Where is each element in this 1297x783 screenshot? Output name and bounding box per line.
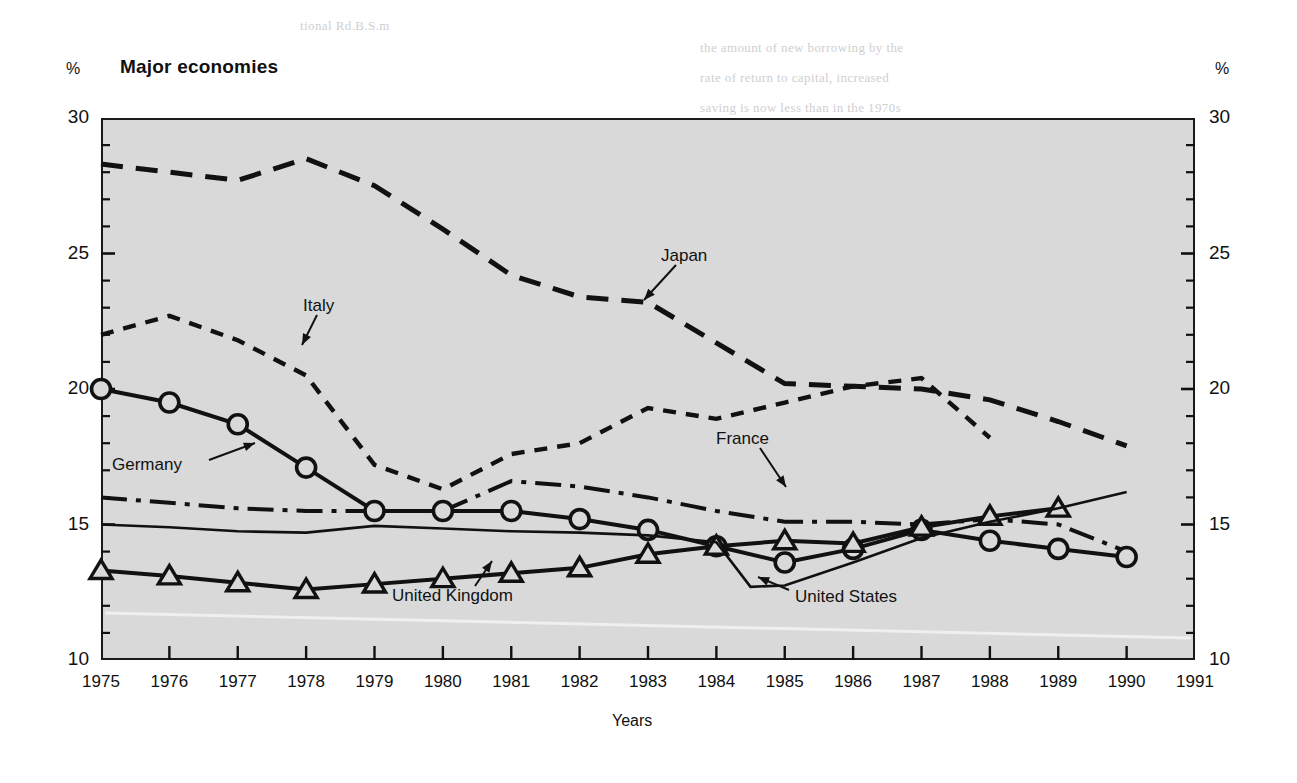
- bleed-text-line: tional Rd.B.S.m: [300, 18, 390, 34]
- figure-page: tional Rd.B.S.mthe amount of new borrowi…: [0, 0, 1297, 783]
- x-axis-tick-label: 1983: [629, 672, 667, 692]
- series-label-france: France: [716, 429, 769, 449]
- series-label-united-states: United States: [795, 587, 897, 607]
- series-label-japan: Japan: [661, 246, 707, 266]
- y-axis-tick-label: 10: [1209, 648, 1259, 670]
- x-axis-tick-label: 1975: [82, 672, 120, 692]
- y-axis-unit-left: %: [66, 60, 80, 78]
- x-axis-tick-label: 1981: [492, 672, 530, 692]
- y-axis-tick-label: 20: [39, 377, 89, 399]
- x-axis-tick-label: 1978: [287, 672, 325, 692]
- series-label-germany: Germany: [112, 455, 182, 475]
- x-axis-caption: Years: [612, 712, 652, 730]
- series-label-united-kingdom: United Kingdom: [392, 586, 513, 606]
- bleed-text-line: the amount of new borrowing by the: [700, 40, 904, 56]
- series-label-italy: Italy: [303, 296, 334, 316]
- y-axis-tick-label: 15: [1209, 513, 1259, 535]
- x-axis-tick-label: 1989: [1039, 672, 1077, 692]
- x-axis-tick-label: 1980: [424, 672, 462, 692]
- x-axis-tick-label: 1991: [1176, 672, 1214, 692]
- y-axis-tick-label: 10: [39, 648, 89, 670]
- plot-area: [101, 118, 1195, 660]
- y-axis-tick-label: 25: [1209, 242, 1259, 264]
- x-axis-tick-label: 1986: [834, 672, 872, 692]
- y-axis-tick-label: 30: [1209, 106, 1259, 128]
- y-axis-tick-label: 15: [39, 513, 89, 535]
- y-axis-tick-label: 25: [39, 242, 89, 264]
- x-axis-tick-label: 1979: [356, 672, 394, 692]
- x-axis-tick-label: 1984: [697, 672, 735, 692]
- chart-title: Major economies: [120, 56, 278, 78]
- x-axis-tick-label: 1987: [903, 672, 941, 692]
- bleed-text-line: saving is now less than in the 1970s: [700, 100, 901, 116]
- x-axis-tick-label: 1990: [1108, 672, 1146, 692]
- y-axis-tick-label: 30: [39, 106, 89, 128]
- x-axis-tick-label: 1976: [150, 672, 188, 692]
- x-axis-tick-label: 1982: [561, 672, 599, 692]
- y-axis-tick-label: 20: [1209, 377, 1259, 399]
- y-axis-unit-right: %: [1215, 60, 1229, 78]
- x-axis-tick-label: 1977: [219, 672, 257, 692]
- x-axis-tick-label: 1988: [971, 672, 1009, 692]
- bleed-text-line: rate of return to capital, increased: [700, 70, 889, 86]
- x-axis-tick-label: 1985: [766, 672, 804, 692]
